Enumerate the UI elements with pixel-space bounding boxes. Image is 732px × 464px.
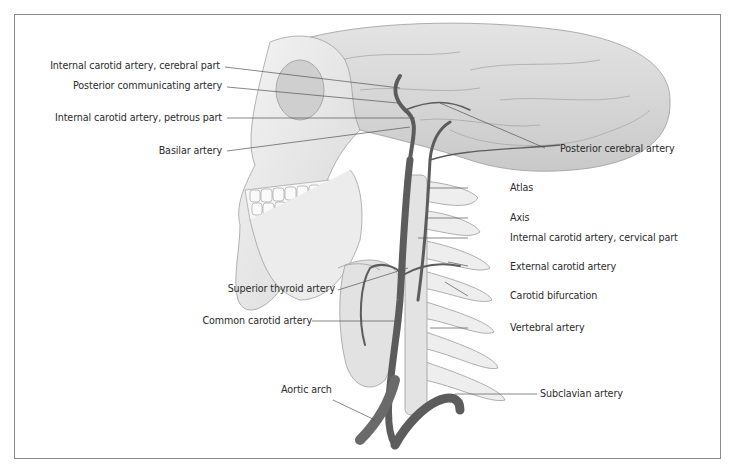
label-superior-thyroid-artery: Superior thyroid artery xyxy=(228,283,335,295)
label-axis: Axis xyxy=(510,212,530,224)
label-external-carotid-artery: External carotid artery xyxy=(510,261,616,273)
label-posterior-cerebral-artery: Posterior cerebral artery xyxy=(560,143,675,155)
skull xyxy=(236,36,362,310)
label-carotid-bifurcation: Carotid bifurcation xyxy=(510,290,597,302)
label-atlas: Atlas xyxy=(510,182,533,194)
label-aortic-arch: Aortic arch xyxy=(281,384,332,396)
label-subclavian-artery: Subclavian artery xyxy=(540,388,623,400)
label-internal-carotid-cerebral: Internal carotid artery, cerebral part xyxy=(50,60,220,72)
label-internal-carotid-petrous: Internal carotid artery, petrous part xyxy=(55,112,222,124)
label-basilar-artery: Basilar artery xyxy=(159,145,222,157)
label-posterior-communicating: Posterior communicating artery xyxy=(73,80,222,92)
label-common-carotid-artery: Common carotid artery xyxy=(202,315,312,327)
label-vertebral-artery: Vertebral artery xyxy=(510,322,584,334)
label-internal-carotid-cervical: Internal carotid artery, cervical part xyxy=(510,232,678,244)
